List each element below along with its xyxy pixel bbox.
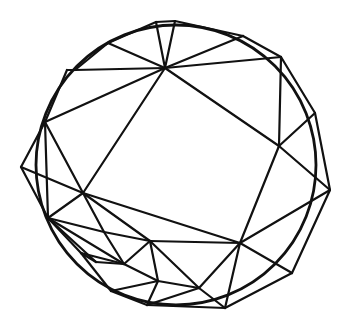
mesh-edge-P1-P3 [108, 22, 156, 43]
mesh-edge-A-P2 [165, 21, 175, 68]
mesh-edge-B-P8 [48, 193, 83, 218]
mesh-edge-G-I [124, 264, 158, 281]
mesh-edge-A-P3 [108, 43, 165, 68]
mesh-edge-P3-P5 [75, 43, 108, 70]
mesh-edge-A-P1 [156, 22, 165, 68]
mesh-edge-A-D [165, 68, 279, 146]
mesh-edge-A-P16 [165, 57, 281, 68]
mesh-edge-C-P13 [240, 243, 292, 273]
mesh-edge-P6-P7 [21, 122, 45, 167]
mesh-edge-P10-P11 [111, 291, 147, 305]
mesh-edge-C-H [150, 241, 240, 243]
mesh-edge-D-P15 [279, 113, 315, 146]
mesh-edge-C-P14 [240, 190, 330, 243]
mesh-edges [21, 21, 330, 308]
mesh-edge-P2-P17 [175, 21, 243, 36]
mesh-edge-P1-P2 [156, 21, 175, 22]
mesh-edge-P7-P8 [21, 167, 48, 218]
mesh-edge-D-C [240, 146, 279, 243]
mesh-edge-P15-P16 [281, 57, 315, 113]
triangulated-circle-diagram [0, 0, 349, 331]
mesh-edge-P6-P8 [45, 122, 48, 218]
mesh-edge-G-H [124, 241, 150, 264]
mesh-edge-B-P7 [21, 167, 83, 193]
mesh-edge-P11-P12 [147, 305, 225, 308]
mesh-edge-A-P5 [75, 68, 165, 70]
mesh-edge-B-P6 [45, 122, 83, 193]
mesh-edge-I-P10 [111, 281, 158, 291]
